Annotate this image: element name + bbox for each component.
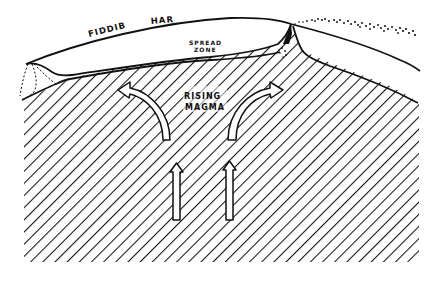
label-zone: ZONE (194, 46, 217, 53)
label-har: HAR (150, 14, 174, 26)
label-magma: MAGMA (185, 103, 225, 112)
ridge-ejecta-dots (294, 18, 416, 36)
seafloor-spreading-diagram: FIDDIB HAR SPREAD ZONE RISING MAGMA (0, 0, 441, 281)
label-spread: SPREAD (189, 39, 222, 46)
label-rising: RISING (184, 92, 221, 101)
